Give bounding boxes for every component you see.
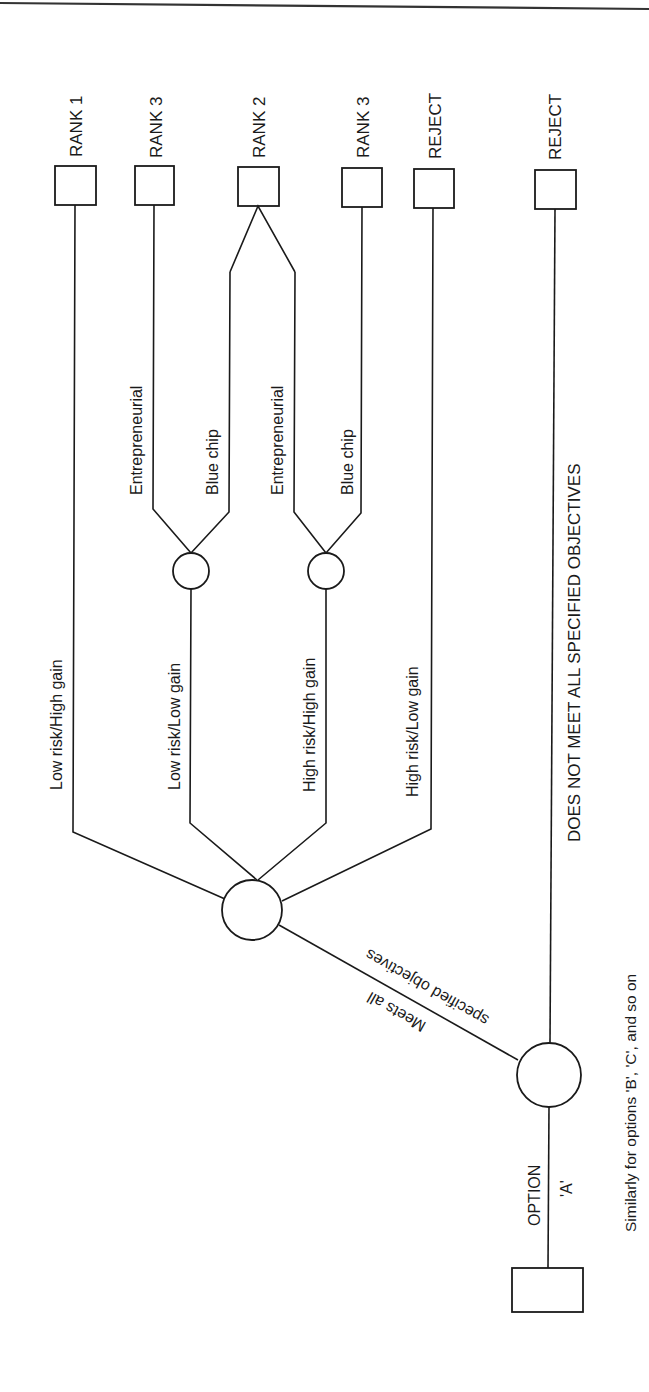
branch-does-not-meet (550, 209, 555, 1043)
decision-tree-diagram: RANK 1 RANK 3 RANK 2 RANK 3 REJECT REJEC… (0, 0, 649, 1392)
page-top-rule (0, 3, 649, 9)
outcome-node-reject-a: REJECT (414, 93, 454, 208)
branch-blue-chip-1 (191, 272, 230, 553)
chance-node-objectives (517, 1043, 581, 1107)
outcome-node-rank-3-a: RANK 3 (135, 97, 174, 205)
outcome-node-rank-2: RANK 2 (238, 97, 279, 206)
branch-low-risk-high-gain (73, 205, 225, 899)
outcome-node-rank-1: RANK 1 (55, 96, 96, 205)
chance-node-high-risk-high-gain (308, 553, 344, 589)
label-does-not-meet: DOES NOT MEET ALL SPECIFIED OBJECTIVES (565, 463, 584, 842)
branch-meets-objectives (279, 925, 518, 1060)
outcome-label: REJECT (546, 94, 565, 160)
chance-node-low-risk-low-gain (173, 553, 209, 589)
label-option-a: 'A' (558, 1180, 575, 1197)
outcome-label: RANK 2 (250, 97, 269, 158)
branch-option-a (548, 1107, 549, 1268)
chance-node-risk-gain (222, 880, 282, 940)
outcome-label: REJECT (426, 93, 445, 159)
label-specified-objectives: specified objectives (362, 946, 491, 1029)
label-blue-chip-1: Blue chip (204, 429, 221, 495)
decision-node-option-a (512, 1268, 583, 1312)
outcome-label: RANK 3 (354, 97, 373, 158)
label-option: OPTION (526, 1165, 543, 1226)
outcome-label: RANK 1 (67, 96, 86, 157)
label-high-risk-high-gain: High risk/High gain (301, 658, 318, 792)
outcome-node-reject-b: REJECT (535, 94, 576, 209)
caption-similarly: Similarly for options 'B', 'C', and so o… (622, 974, 639, 1232)
branch-entrepreneurial-1 (153, 205, 191, 553)
label-low-risk-high-gain: Low risk/High gain (48, 659, 65, 790)
label-low-risk-low-gain: Low risk/Low gain (166, 663, 183, 790)
branch-entrepreneurial-2 (294, 272, 326, 553)
outcome-label: RANK 3 (147, 97, 166, 158)
branch-blue-chip-2 (326, 207, 362, 553)
label-entrepreneurial-2: Entrepreneurial (269, 386, 286, 495)
rank-2-split (230, 206, 295, 272)
outcome-node-rank-3-b: RANK 3 (342, 97, 382, 207)
label-entrepreneurial-1: Entrepreneurial (128, 386, 145, 495)
label-meets-all: Meets all (364, 989, 428, 1035)
label-blue-chip-2: Blue chip (339, 429, 356, 495)
branch-low-risk-low-gain (190, 589, 257, 880)
label-high-risk-low-gain: High risk/Low gain (404, 666, 421, 797)
